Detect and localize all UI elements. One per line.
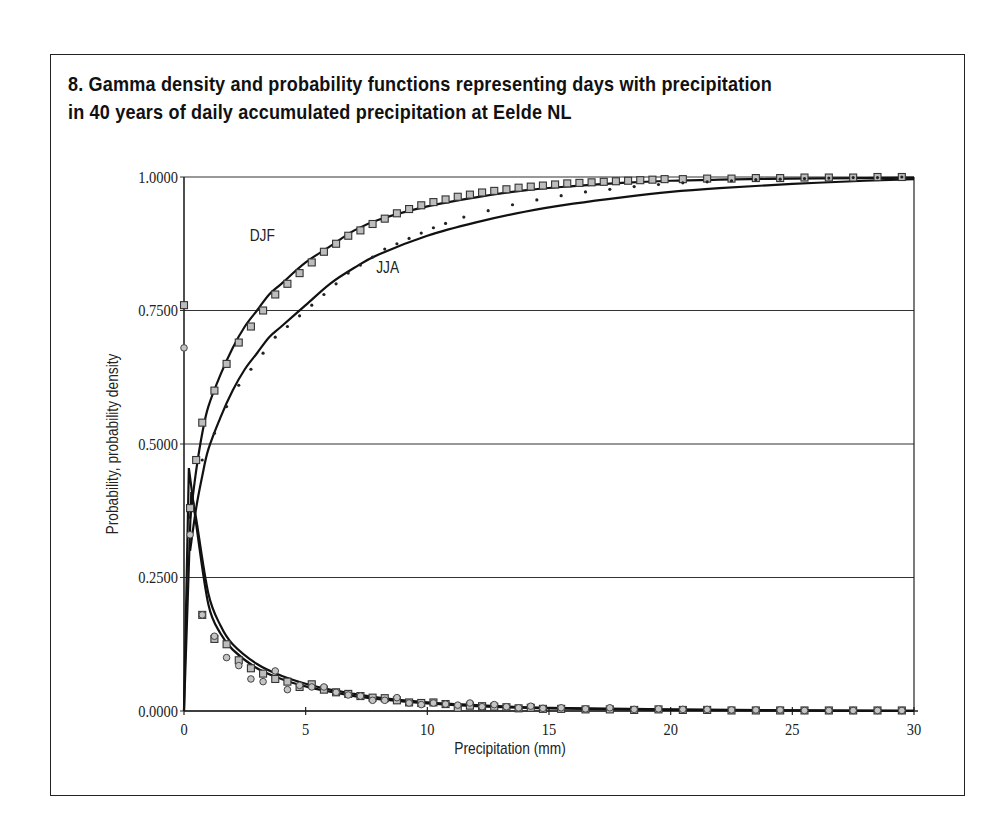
- circle-marker: [753, 707, 760, 714]
- dot-marker: [225, 405, 228, 408]
- circle-marker: [308, 684, 315, 691]
- dot-marker: [730, 179, 733, 182]
- circle-marker: [296, 682, 303, 689]
- y-axis-label: Probability, probability density: [103, 353, 121, 534]
- circle-marker: [181, 345, 188, 352]
- dot-marker: [420, 231, 423, 234]
- x-tick-label: 20: [663, 720, 678, 738]
- circle-marker: [381, 697, 388, 704]
- square-marker: [181, 302, 188, 309]
- square-marker: [637, 177, 644, 184]
- square-marker: [308, 259, 315, 266]
- circle-marker: [631, 706, 638, 713]
- circle-marker: [850, 707, 857, 714]
- dot-marker: [359, 264, 362, 267]
- circle-marker: [199, 612, 206, 619]
- dot-marker: [900, 175, 903, 178]
- circle-marker: [333, 689, 340, 696]
- series-label-jja: JJA: [376, 258, 399, 276]
- x-tick-label: 25: [785, 720, 800, 738]
- dot-marker: [633, 185, 636, 188]
- dot-marker: [322, 293, 325, 296]
- dot-marker: [371, 256, 374, 259]
- circle-marker: [503, 703, 510, 710]
- dot-marker: [657, 183, 660, 186]
- circle-marker: [454, 702, 461, 709]
- series-line: [190, 179, 914, 551]
- dot-marker: [383, 247, 386, 250]
- circle-marker: [558, 704, 565, 711]
- dot-marker: [827, 176, 830, 179]
- square-marker: [320, 248, 327, 255]
- y-tick-label: 0.0000: [138, 702, 178, 720]
- y-tick-label: 0.7500: [138, 301, 178, 319]
- square-marker: [272, 291, 279, 298]
- dot-marker: [608, 188, 611, 191]
- series-label-djf: DJF: [250, 226, 275, 244]
- circle-marker: [540, 705, 547, 712]
- circle-marker: [418, 701, 425, 708]
- square-marker: [345, 232, 352, 239]
- square-marker: [187, 505, 194, 512]
- circle-marker: [223, 654, 230, 661]
- circle-marker: [680, 706, 687, 713]
- square-marker: [503, 186, 510, 193]
- square-marker: [479, 189, 486, 196]
- axes: [184, 177, 918, 715]
- dot-marker: [681, 181, 684, 184]
- dot-marker: [274, 336, 277, 339]
- series-line: [184, 492, 914, 711]
- dot-marker: [560, 194, 563, 197]
- square-marker: [199, 419, 206, 426]
- square-marker: [247, 323, 254, 330]
- square-marker: [260, 670, 267, 677]
- dot-marker: [237, 384, 240, 387]
- square-marker: [430, 199, 437, 206]
- dot-marker: [803, 177, 806, 180]
- dot-marker: [535, 198, 538, 201]
- square-marker: [235, 339, 242, 346]
- dot-marker: [487, 209, 490, 212]
- square-marker: [357, 227, 364, 234]
- square-marker: [272, 675, 279, 682]
- square-marker: [223, 360, 230, 367]
- dot-marker: [213, 432, 216, 435]
- dot-marker: [876, 176, 879, 179]
- square-marker: [454, 193, 461, 200]
- dot-marker: [395, 242, 398, 245]
- dot-marker: [706, 180, 709, 183]
- circle-marker: [211, 633, 218, 640]
- y-tick-label: 1.0000: [138, 168, 178, 186]
- x-tick-label: 30: [907, 720, 922, 738]
- square-marker: [418, 202, 425, 209]
- x-tick-label: 5: [302, 720, 309, 738]
- dot-marker: [347, 272, 350, 275]
- dot-marker: [852, 176, 855, 179]
- circle-marker: [479, 703, 486, 710]
- dot-marker: [462, 215, 465, 218]
- circle-marker: [357, 693, 364, 700]
- square-marker: [193, 457, 200, 464]
- series-line: [184, 468, 914, 711]
- circle-marker: [899, 707, 906, 714]
- circle-marker: [394, 694, 401, 701]
- square-marker: [381, 215, 388, 222]
- circle-marker: [187, 531, 194, 538]
- circle-marker: [491, 701, 498, 708]
- square-marker: [564, 180, 571, 187]
- square-marker: [442, 196, 449, 203]
- square-marker: [515, 184, 522, 191]
- square-marker: [625, 177, 632, 184]
- square-marker: [491, 187, 498, 194]
- square-marker: [247, 665, 254, 672]
- square-marker: [393, 210, 400, 217]
- circle-marker: [777, 707, 784, 714]
- circle-marker: [430, 700, 437, 707]
- square-marker: [369, 220, 376, 227]
- dot-marker: [754, 178, 757, 181]
- square-marker: [576, 179, 583, 186]
- square-marker: [284, 678, 291, 685]
- dot-marker: [261, 352, 264, 355]
- dot-marker: [286, 325, 289, 328]
- gridlines: [180, 177, 914, 711]
